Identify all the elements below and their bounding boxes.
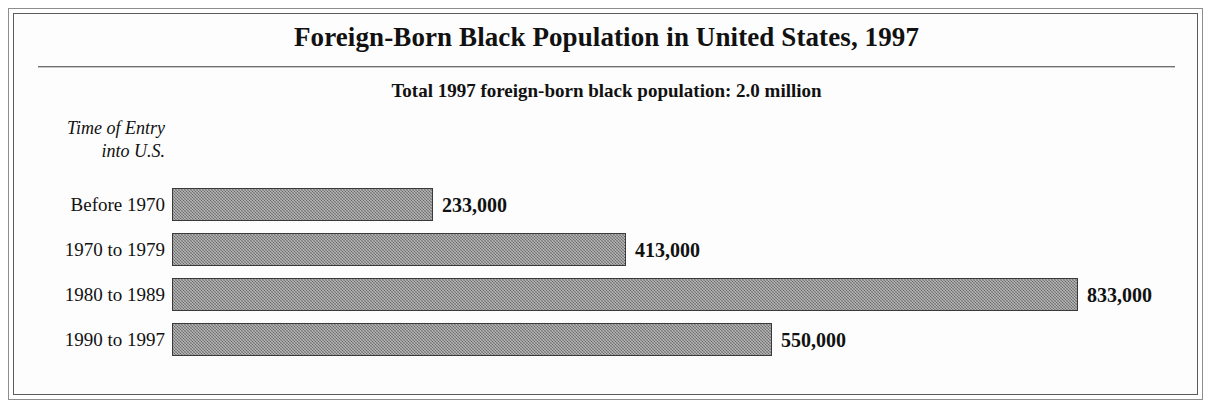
bar-row: 1970 to 1979 413,000 [0, 227, 1215, 272]
bar-before-1970[interactable] [172, 188, 433, 221]
bar-track: 833,000 [172, 272, 1215, 317]
chart-title: Foreign-Born Black Population in United … [38, 22, 1175, 53]
bar-1970-to-1979[interactable] [172, 233, 626, 266]
category-label: 1990 to 1997 [10, 329, 165, 351]
chart-sheet: Foreign-Born Black Population in United … [0, 0, 1215, 410]
bar-plot-area: Before 1970 233,000 1970 to 1979 413,000… [0, 182, 1215, 372]
bar-row: Before 1970 233,000 [0, 182, 1215, 227]
bar-1980-to-1989[interactable] [172, 278, 1078, 311]
bar-track: 233,000 [172, 182, 1215, 227]
category-label: 1970 to 1979 [10, 239, 165, 261]
bar-track: 550,000 [172, 317, 1215, 362]
category-axis-title-line-1: Time of Entry [10, 117, 165, 140]
bar-value-label: 413,000 [635, 238, 700, 261]
bar-value-label: 833,000 [1087, 283, 1152, 306]
category-axis-title: Time of Entry into U.S. [10, 117, 165, 163]
category-label: Before 1970 [10, 194, 165, 216]
bar-value-label: 550,000 [781, 328, 846, 351]
bar-track: 413,000 [172, 227, 1215, 272]
chart-subtitle: Total 1997 foreign-born black population… [38, 80, 1175, 102]
title-divider-rule [38, 66, 1175, 68]
category-label: 1980 to 1989 [10, 284, 165, 306]
bar-value-label: 233,000 [442, 193, 507, 216]
bar-row: 1980 to 1989 833,000 [0, 272, 1215, 317]
bar-row: 1990 to 1997 550,000 [0, 317, 1215, 362]
bar-1990-to-1997[interactable] [172, 323, 772, 356]
category-axis-title-line-2: into U.S. [10, 140, 165, 163]
